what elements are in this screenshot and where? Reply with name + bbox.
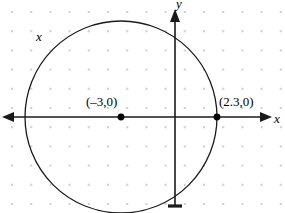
y-axis [168,9,182,206]
x-axis-label: x [274,112,280,125]
point-marker-left [118,114,125,121]
point-marker-right [214,114,221,121]
coordinate-plane-figure: x x y (–3,0) (2.3,0) [0,0,285,213]
x-axis-label-top-left: x [36,30,42,43]
y-axis-label: y [176,0,182,10]
x-axis-right-arrowhead [260,112,272,122]
x-axis-left-arrowhead [2,112,14,122]
point-label-right: (2.3,0) [219,95,254,108]
point-label-left: (–3,0) [86,95,117,108]
x-axis [2,112,272,122]
